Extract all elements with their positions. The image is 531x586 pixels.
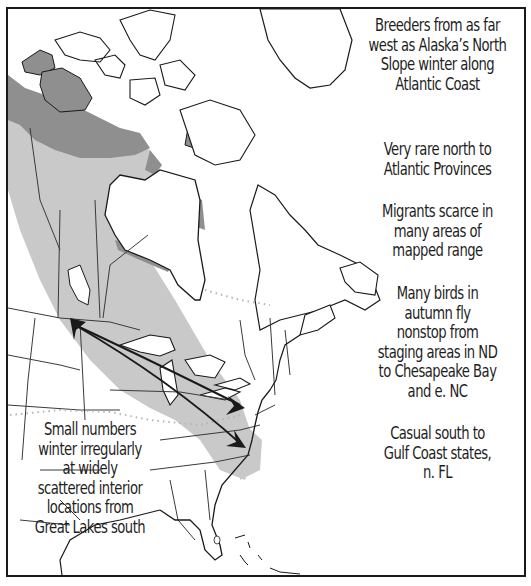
lake-okeechobee: [214, 536, 220, 544]
note-small-numbers: Small numbers winter irregularly at wide…: [30, 420, 150, 537]
caribbean-islands: [235, 535, 300, 574]
note-migrants-scarce: Migrants scarce in many areas of mapped …: [362, 202, 513, 261]
note-casual-south: Casual south to Gulf Coast states, n. FL: [362, 424, 513, 483]
note-very-rare: Very rare north to Atlantic Provinces: [362, 140, 513, 179]
greenland: [260, 9, 352, 88]
note-breeders: Breeders from as far west as Alaska’s No…: [362, 16, 513, 94]
nova-scotia: [300, 305, 335, 335]
labrador-coast: [250, 185, 380, 330]
baffin-island: [180, 100, 255, 165]
note-nonstop: Many birds in autumn fly nonstop from st…: [362, 284, 513, 401]
new-england-coast: [270, 335, 300, 390]
